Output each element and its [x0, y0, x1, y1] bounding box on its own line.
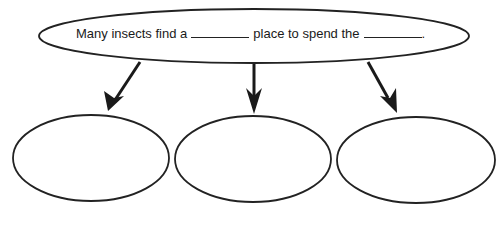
- blank-2[interactable]: [364, 26, 422, 38]
- arrow-right: [368, 62, 397, 113]
- main-idea-sentence: Many insects find aplace to spend the.: [76, 26, 425, 41]
- arrow-center: [246, 64, 262, 114]
- detail-ellipse-1[interactable]: [13, 115, 169, 201]
- main-idea-period: .: [422, 26, 426, 41]
- main-idea-text-2: place to spend the: [253, 26, 359, 41]
- detail-ellipse-2[interactable]: [175, 116, 331, 202]
- blank-1[interactable]: [191, 26, 249, 38]
- arrow-left: [104, 62, 140, 111]
- detail-ellipse-3[interactable]: [337, 117, 495, 203]
- main-idea-text-1: Many insects find a: [76, 26, 187, 41]
